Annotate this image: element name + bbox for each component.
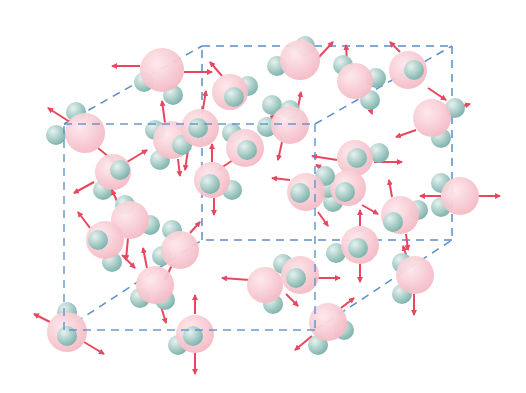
velocity-arrow-icon: [74, 182, 94, 193]
water-molecule: [74, 150, 147, 200]
hydrogen-atom: [404, 60, 424, 80]
hydrogen-atom: [347, 148, 367, 168]
water-molecule: [396, 98, 470, 148]
water-molecule: [273, 254, 340, 306]
water-molecule: [267, 36, 333, 80]
water-molecule: [257, 92, 309, 160]
water-molecule: [34, 302, 104, 354]
oxygen-atom: [161, 231, 199, 269]
velocity-arrow-icon: [126, 238, 128, 260]
velocity-arrow-icon: [318, 212, 328, 226]
velocity-arrow-icon: [210, 62, 222, 76]
hydrogen-atom: [224, 87, 244, 107]
molecules-layer: [34, 36, 500, 374]
hydrogen-atom: [110, 160, 130, 180]
velocity-arrow-icon: [390, 42, 400, 52]
velocity-arrow-icon: [78, 212, 90, 228]
water-molecule: [326, 210, 379, 282]
water-molecule: [168, 295, 214, 374]
oxygen-atom: [337, 63, 373, 99]
water-molecule: [333, 45, 386, 114]
oxygen-atom: [413, 99, 451, 137]
oxygen-atom: [441, 177, 479, 215]
hydrogen-atom: [335, 182, 355, 202]
velocity-arrow-icon: [203, 91, 206, 109]
hydrogen-atom: [183, 326, 203, 346]
oxygen-atom: [271, 106, 309, 144]
velocity-arrow-icon: [406, 234, 408, 250]
velocity-arrow-icon: [34, 314, 50, 322]
velocity-arrow-icon: [122, 255, 135, 268]
hydrogen-atom: [188, 118, 208, 138]
oxygen-atom: [65, 113, 105, 153]
water-molecule: [295, 298, 354, 355]
velocity-arrow-icon: [362, 205, 378, 214]
diagram-canvas: Water molecules in random motion within …: [0, 0, 526, 393]
velocity-arrow-icon: [272, 178, 290, 180]
water-molecule-diagram: [0, 0, 526, 393]
velocity-arrow-icon: [428, 88, 446, 100]
velocity-arrow-icon: [190, 222, 200, 233]
hydrogen-atom: [286, 268, 306, 288]
oxygen-atom: [136, 266, 174, 304]
water-molecule: [46, 102, 115, 162]
velocity-arrow-icon: [396, 130, 416, 137]
hydrogen-atom: [57, 326, 77, 346]
oxygen-atom: [140, 48, 184, 92]
water-molecule: [420, 173, 500, 217]
velocity-arrow-icon: [178, 159, 180, 176]
velocity-arrow-icon: [389, 180, 392, 197]
velocity-arrow-icon: [143, 248, 147, 268]
velocity-arrow-icon: [278, 142, 282, 160]
hydrogen-atom: [88, 230, 108, 250]
hydrogen-atom: [46, 125, 66, 145]
hydrogen-atom: [200, 174, 220, 194]
water-molecule: [112, 48, 212, 105]
water-molecule: [392, 246, 434, 315]
hydrogen-atom: [348, 238, 368, 258]
velocity-arrow-icon: [162, 101, 165, 123]
water-molecule: [210, 62, 258, 110]
hydrogen-atom: [237, 140, 257, 160]
oxygen-atom: [280, 40, 320, 80]
velocity-arrow-icon: [127, 150, 147, 162]
velocity-arrow-icon: [286, 294, 298, 306]
velocity-arrow-icon: [318, 42, 333, 58]
hydrogen-atom: [383, 212, 403, 232]
velocity-arrow-icon: [84, 342, 104, 354]
hydrogen-atom: [290, 183, 310, 203]
oxygen-atom: [396, 256, 434, 294]
water-molecule: [389, 42, 446, 100]
velocity-arrow-icon: [222, 278, 250, 280]
